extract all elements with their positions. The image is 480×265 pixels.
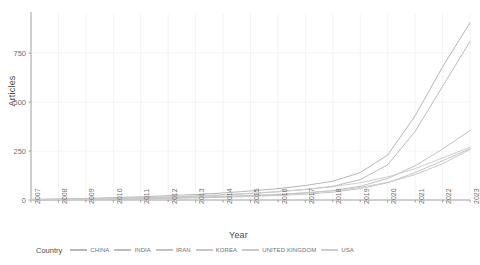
legend-item-label: IRAN (176, 247, 191, 253)
legend-line-swatch (156, 249, 173, 250)
legend-item-label: UNITED KINGDOM (262, 247, 316, 253)
x-axis-title: Year (0, 230, 477, 240)
legend-item-iran[interactable]: IRAN (156, 247, 191, 253)
x-tick-label: 2009 (88, 188, 95, 204)
x-tick-label: 2017 (308, 188, 315, 204)
legend-item-label: USA (341, 247, 354, 253)
legend-line-swatch (70, 249, 87, 250)
legend-item-label: INDIA (134, 247, 151, 253)
x-tick-label: 2018 (335, 188, 342, 204)
legend-item-label: CHINA (90, 247, 109, 253)
x-tick-label: 2013 (198, 188, 205, 204)
x-tick-label: 2016 (281, 188, 288, 204)
x-tick-label: 2011 (143, 189, 150, 204)
legend-item-united-kingdom[interactable]: UNITED KINGDOM (242, 247, 316, 253)
x-tick-label: 2019 (363, 188, 370, 204)
legend-item-label: KOREA (216, 247, 238, 253)
chart-legend: Country CHINAINDIAIRANKOREAUNITED KINGDO… (36, 243, 354, 257)
x-tick-label: 2008 (61, 188, 68, 204)
x-tick-label: 2021 (418, 188, 425, 204)
x-tick-label: 2022 (445, 188, 452, 204)
legend-item-usa[interactable]: USA (321, 247, 354, 253)
legend-line-swatch (196, 249, 213, 250)
legend-item-china[interactable]: CHINA (70, 247, 109, 253)
x-tick-label: 2007 (34, 188, 41, 204)
x-tick-label: 2015 (253, 188, 260, 204)
legend-line-swatch (114, 249, 131, 250)
x-tick-label: 2014 (226, 188, 233, 204)
legend-line-swatch (242, 249, 259, 250)
legend-item-korea[interactable]: KOREA (196, 247, 238, 253)
x-tick-label: 2010 (116, 188, 123, 204)
x-tick-label: 2023 (473, 188, 480, 204)
x-tick-label: 2012 (171, 188, 178, 204)
legend-line-swatch (321, 249, 338, 250)
x-tick-label: 2020 (390, 188, 397, 204)
legend-title: Country (36, 246, 62, 255)
legend-item-india[interactable]: INDIA (114, 247, 151, 253)
